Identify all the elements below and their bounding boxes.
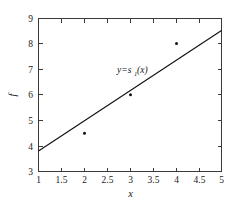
y-tick-label: 8 <box>28 39 33 49</box>
x-axis-tick-labels: 1 1.5 2 2.5 3 3.5 4 4.5 5 <box>36 175 224 185</box>
chart-figure: 1 1.5 2 2.5 3 3.5 4 4.5 5 3 4 5 6 7 8 9 … <box>0 0 237 205</box>
y-tick-label: 6 <box>28 90 33 100</box>
x-tick-label: 3 <box>128 175 133 185</box>
data-point <box>129 93 132 96</box>
x-tick-label: 2.5 <box>102 175 114 185</box>
x-tick-label: 5 <box>219 175 224 185</box>
scatter-plot: 1 1.5 2 2.5 3 3.5 4 4.5 5 3 4 5 6 7 8 9 … <box>0 0 237 205</box>
x-tick-label: 3.5 <box>148 175 160 185</box>
data-point <box>175 42 178 45</box>
x-tick-label: 4.5 <box>194 175 206 185</box>
y-axis-title: f <box>7 91 18 96</box>
y-tick-label: 3 <box>28 167 33 177</box>
x-axis-title: x <box>127 188 133 199</box>
data-point <box>83 132 86 135</box>
y-tick-label: 5 <box>28 116 33 126</box>
x-tick-label: 1 <box>36 175 41 185</box>
x-tick-label: 1.5 <box>56 175 68 185</box>
y-tick-label: 9 <box>28 14 33 24</box>
curve-annotation-main: y=s <box>116 65 132 75</box>
y-axis-tick-labels: 3 4 5 6 7 8 9 <box>28 14 33 177</box>
y-tick-label: 7 <box>28 65 33 75</box>
x-tick-label: 2 <box>82 175 87 185</box>
x-tick-label: 4 <box>174 175 179 185</box>
curve-annotation-suffix: (x) <box>137 65 148 76</box>
y-tick-label: 4 <box>28 142 33 152</box>
